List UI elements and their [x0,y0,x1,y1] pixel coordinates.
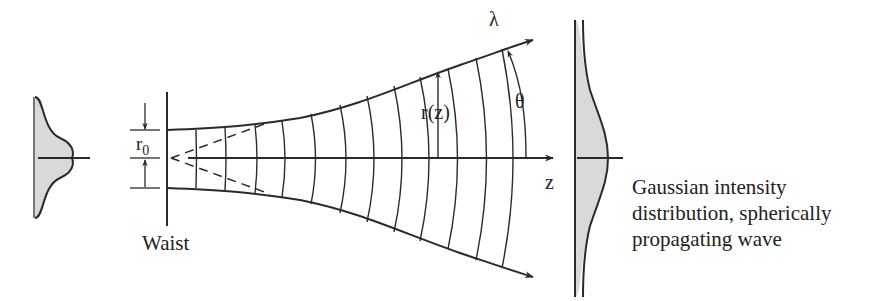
caption-line: Gaussian intensity [632,174,881,200]
radius-label: r(z) [421,101,450,124]
waist-label: Waist [142,231,189,255]
far-field-gaussian-profile [575,20,623,297]
caption: Gaussian intensity distribution, spheric… [632,174,881,252]
beam-envelope-bottom [167,188,533,277]
gaussian-beam-diagram: λ r(z) θ z r0 Waist [0,0,881,301]
caption-line: propagating wave [632,226,881,252]
wavelength-label: λ [489,8,499,30]
waist-gaussian-profile [34,97,90,218]
theta-label: θ [515,90,525,112]
z-axis-label: z [545,171,554,193]
waist-radius-label: r0 [136,133,149,158]
caption-line: distribution, spherically [632,200,881,226]
waist-radius-subscript: 0 [142,143,149,158]
beam-envelope-top [167,40,533,130]
